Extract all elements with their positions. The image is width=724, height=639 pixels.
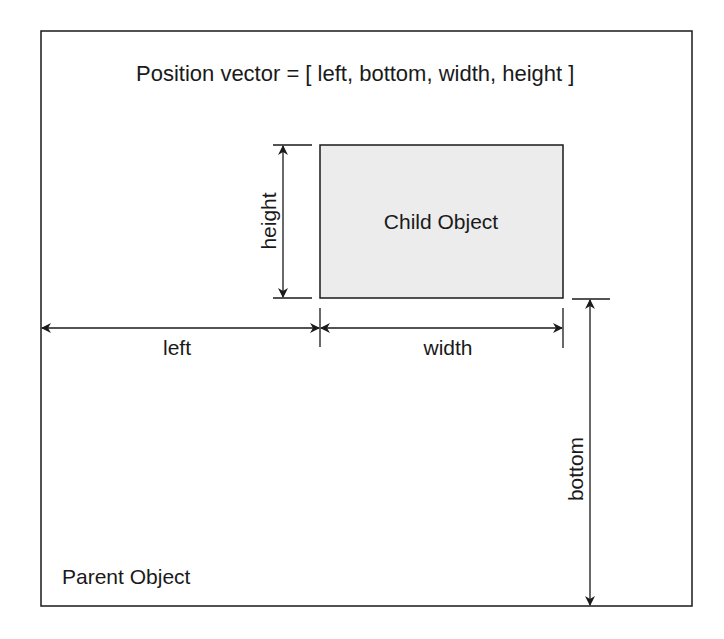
left-label: left: [163, 336, 191, 359]
bottom-label: bottom: [564, 437, 587, 501]
parent-object-label: Parent Object: [62, 565, 191, 588]
position-vector-diagram: Position vector = [ left, bottom, width,…: [0, 0, 724, 639]
diagram-title: Position vector = [ left, bottom, width,…: [136, 61, 574, 86]
width-label: width: [422, 336, 472, 359]
height-label: height: [257, 192, 280, 249]
parent-object-frame: [41, 31, 692, 606]
child-object-label: Child Object: [384, 210, 499, 233]
